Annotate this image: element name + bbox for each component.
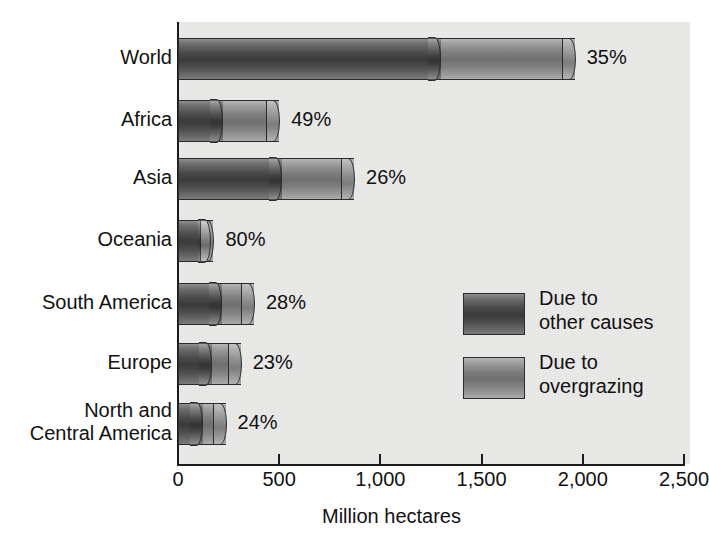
bar-end-cap xyxy=(562,38,576,80)
bar-end-cap xyxy=(228,343,242,385)
category-label-north-and-central-america: North andCentral America xyxy=(0,399,172,445)
category-label-asia: Asia xyxy=(0,166,172,189)
category-label-south-america: South America xyxy=(0,291,172,314)
category-label-line: Africa xyxy=(0,108,172,131)
bar-segment-divider xyxy=(210,99,223,143)
data-label-asia: 26% xyxy=(366,166,406,189)
bar-segment-other-causes-world xyxy=(441,38,575,80)
x-tick-label-0: 0 xyxy=(172,468,183,491)
bar-segment-other-causes-africa xyxy=(223,100,280,142)
category-label-line: Central America xyxy=(0,422,172,445)
x-tick-2500 xyxy=(683,454,685,465)
bar-segment-other-causes-oceania xyxy=(211,220,213,262)
bar-segment-other-causes-north-and-central-america xyxy=(203,403,225,445)
legend: Due to other causes Due to overgrazing xyxy=(463,291,685,419)
bar-north-and-central-america xyxy=(178,403,226,445)
x-tick-2000 xyxy=(582,454,584,465)
x-tick-label-2500: 2,500 xyxy=(659,468,709,491)
bar-end-cap xyxy=(341,158,355,200)
bar-segment-other-causes-asia xyxy=(282,158,354,200)
x-tick-label-1500: 1,500 xyxy=(457,468,507,491)
data-label-europe: 23% xyxy=(253,351,293,374)
bar-asia xyxy=(178,158,354,200)
bar-segment-overgrazing-world xyxy=(178,38,441,80)
x-tick-1500 xyxy=(481,454,483,465)
legend-item: Due to overgrazing xyxy=(463,355,685,419)
data-label-world: 35% xyxy=(587,46,627,69)
legend-item: Due to other causes xyxy=(463,291,685,355)
category-label-line: South America xyxy=(0,291,172,314)
x-tick-label-500: 500 xyxy=(263,468,296,491)
category-label-africa: Africa xyxy=(0,108,172,131)
bar-world xyxy=(178,38,575,80)
category-label-line: Oceania xyxy=(0,228,172,251)
category-label-line: World xyxy=(0,46,172,69)
bar-south-america xyxy=(178,283,254,325)
bar-africa xyxy=(178,100,279,142)
bar-segment-other-causes-europe xyxy=(212,343,240,385)
legend-label-other-causes: Due to other causes xyxy=(539,287,654,334)
legend-label-overgrazing: Due to overgrazing xyxy=(539,351,644,398)
data-label-north-and-central-america: 24% xyxy=(238,411,278,434)
category-label-line: North and xyxy=(0,399,172,422)
data-label-oceania: 80% xyxy=(225,228,265,251)
x-axis-title: Million hectares xyxy=(0,505,703,528)
bar-end-cap xyxy=(266,100,280,142)
bar-segment-overgrazing-asia xyxy=(178,158,282,200)
legend-swatch-other-causes xyxy=(463,293,525,335)
x-axis-title-text: Million hectares xyxy=(322,505,461,527)
x-axis-line xyxy=(177,464,685,466)
data-label-africa: 49% xyxy=(291,108,331,131)
category-label-europe: Europe xyxy=(0,351,172,374)
bar-oceania xyxy=(178,220,213,262)
x-tick-500 xyxy=(278,454,280,465)
legend-swatch-overgrazing xyxy=(463,357,525,399)
x-tick-1000 xyxy=(379,454,381,465)
category-label-line: Asia xyxy=(0,166,172,189)
x-tick-label-2000: 2,000 xyxy=(558,468,608,491)
bar-end-cap xyxy=(213,403,227,445)
category-label-oceania: Oceania xyxy=(0,228,172,251)
bar-europe xyxy=(178,343,241,385)
bar-end-cap xyxy=(241,283,255,325)
category-label-line: Europe xyxy=(0,351,172,374)
x-tick-label-1000: 1,000 xyxy=(355,468,405,491)
bar-segment-divider xyxy=(209,282,222,326)
bar-segment-other-causes-south-america xyxy=(222,283,254,325)
data-label-south-america: 28% xyxy=(266,291,306,314)
category-label-world: World xyxy=(0,46,172,69)
